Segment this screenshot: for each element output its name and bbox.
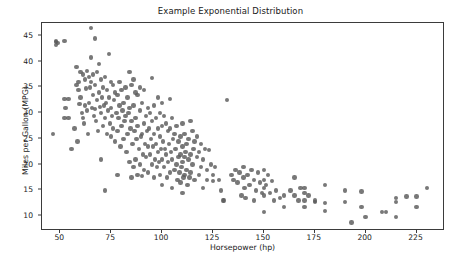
scatter-point [95, 98, 99, 102]
y-axis-title: Miles per Gallon (MPG) [21, 51, 30, 211]
x-tick-label: 125 [195, 233, 229, 242]
scatter-point [191, 147, 195, 151]
scatter-point [225, 98, 229, 102]
scatter-point [186, 157, 190, 161]
scatter-point [180, 191, 184, 195]
scatter-point [66, 116, 70, 120]
scatter-point [183, 150, 187, 154]
scatter-point [254, 188, 258, 192]
chart-figure: Example Exponential Distribution 1015202… [0, 0, 461, 267]
scatter-point [142, 88, 146, 92]
x-tick-mark [161, 230, 162, 233]
scatter-point [205, 178, 209, 182]
scatter-point [170, 157, 174, 161]
scatter-point [156, 95, 160, 99]
scatter-point [124, 150, 128, 154]
scatter-point [296, 198, 300, 202]
y-tick-mark [38, 137, 41, 138]
scatter-point [63, 106, 67, 110]
scatter-point [394, 215, 398, 219]
scatter-point [140, 132, 144, 136]
scatter-point [161, 139, 165, 143]
scatter-point [114, 111, 118, 115]
scatter-point [103, 75, 107, 79]
x-tick-label: 75 [93, 233, 127, 242]
scatter-point [197, 150, 201, 154]
scatter-point [186, 137, 190, 141]
scatter-point [103, 116, 107, 120]
x-tick-label: 175 [297, 233, 331, 242]
scatter-point [146, 144, 150, 148]
scatter-point [262, 178, 266, 182]
scatter-point [150, 119, 154, 123]
scatter-points-layer [42, 23, 443, 229]
scatter-point [190, 129, 194, 133]
scatter-point [125, 95, 129, 99]
scatter-point [199, 165, 203, 169]
scatter-point [149, 137, 153, 141]
scatter-point [182, 173, 186, 177]
scatter-point [243, 196, 247, 200]
y-tick-label: 10 [11, 211, 33, 220]
scatter-point [188, 152, 192, 156]
scatter-point [121, 101, 125, 105]
scatter-point [119, 124, 123, 128]
scatter-point [170, 116, 174, 120]
scatter-point [174, 162, 178, 166]
scatter-point [115, 129, 119, 133]
scatter-point [242, 186, 246, 190]
scatter-point [252, 198, 256, 202]
x-tick-label: 100 [144, 233, 178, 242]
scatter-point [262, 193, 266, 197]
scatter-point [122, 119, 126, 123]
scatter-point [235, 180, 239, 184]
scatter-point [306, 193, 310, 197]
scatter-point [116, 116, 120, 120]
scatter-point [199, 142, 203, 146]
scatter-point [349, 220, 353, 224]
scatter-point [89, 55, 93, 59]
scatter-point [425, 186, 429, 190]
scatter-point [146, 170, 150, 174]
scatter-point [93, 107, 97, 111]
scatter-point [131, 77, 135, 81]
scatter-point [112, 98, 116, 102]
y-tick-mark [38, 163, 41, 164]
y-tick-mark [38, 215, 41, 216]
scatter-point [140, 174, 144, 178]
scatter-point [150, 76, 154, 80]
scatter-point [113, 139, 117, 143]
scatter-point [62, 39, 66, 43]
scatter-point [288, 188, 292, 192]
scatter-point [192, 178, 196, 182]
scatter-point [201, 186, 205, 190]
scatter-point [264, 183, 268, 187]
scatter-point [172, 132, 176, 136]
scatter-point [99, 157, 103, 161]
scatter-point [282, 193, 286, 197]
scatter-point [96, 129, 100, 133]
scatter-point [93, 83, 97, 87]
scatter-point [167, 142, 171, 146]
scatter-point [109, 106, 113, 110]
scatter-point [131, 165, 135, 169]
y-tick-mark [38, 86, 41, 87]
scatter-point [173, 147, 177, 151]
y-tick-mark [38, 34, 41, 35]
scatter-point [132, 129, 136, 133]
scatter-point [323, 183, 327, 187]
scatter-point [135, 124, 139, 128]
x-tick-label: 200 [348, 233, 382, 242]
y-tick-label: 45 [11, 30, 33, 39]
scatter-point [123, 85, 127, 89]
scatter-point [51, 132, 55, 136]
scatter-point [252, 178, 256, 182]
scatter-point [262, 210, 266, 214]
scatter-point [76, 88, 80, 92]
scatter-point [86, 132, 90, 136]
scatter-point [180, 121, 184, 125]
scatter-point [100, 95, 104, 99]
scatter-point [168, 97, 172, 101]
scatter-point [211, 173, 215, 177]
scatter-point [74, 65, 78, 69]
